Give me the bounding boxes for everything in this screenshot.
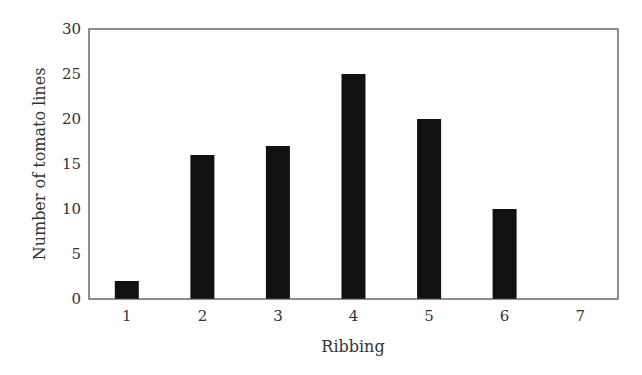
x-tick-label: 3 bbox=[273, 307, 283, 325]
x-tick-label: 7 bbox=[575, 307, 585, 325]
bar-3 bbox=[266, 146, 290, 299]
y-tick-label: 25 bbox=[62, 65, 81, 83]
x-tick-label: 6 bbox=[500, 307, 510, 325]
bar-4 bbox=[342, 74, 366, 299]
y-tick-label: 30 bbox=[62, 20, 81, 38]
x-tick-label: 5 bbox=[424, 307, 434, 325]
y-tick-label: 10 bbox=[62, 200, 81, 218]
x-tick-label: 1 bbox=[122, 307, 132, 325]
y-axis-label: Number of tomato lines bbox=[30, 68, 49, 261]
x-axis-ticks: 1234567 bbox=[122, 307, 585, 325]
bar-2 bbox=[190, 155, 214, 299]
y-tick-label: 0 bbox=[71, 290, 81, 308]
bar-6 bbox=[493, 209, 517, 299]
y-tick-label: 5 bbox=[71, 245, 81, 263]
x-tick-label: 2 bbox=[198, 307, 208, 325]
bar-chart: 051015202530 1234567 Ribbing Number of t… bbox=[0, 0, 642, 375]
bar-1 bbox=[115, 281, 139, 299]
y-tick-label: 20 bbox=[62, 110, 81, 128]
bars bbox=[115, 74, 517, 299]
bar-5 bbox=[417, 119, 441, 299]
x-tick-label: 4 bbox=[349, 307, 359, 325]
x-axis-label: Ribbing bbox=[321, 337, 384, 356]
y-tick-label: 15 bbox=[62, 155, 81, 173]
y-axis-ticks: 051015202530 bbox=[62, 20, 81, 308]
